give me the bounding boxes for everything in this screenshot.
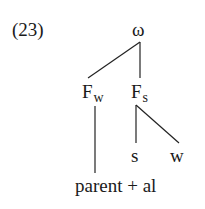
edge-root-to-foot-weak bbox=[88, 42, 140, 78]
edge-foot-strong-to-w bbox=[136, 105, 179, 143]
tree-edges bbox=[0, 0, 205, 209]
